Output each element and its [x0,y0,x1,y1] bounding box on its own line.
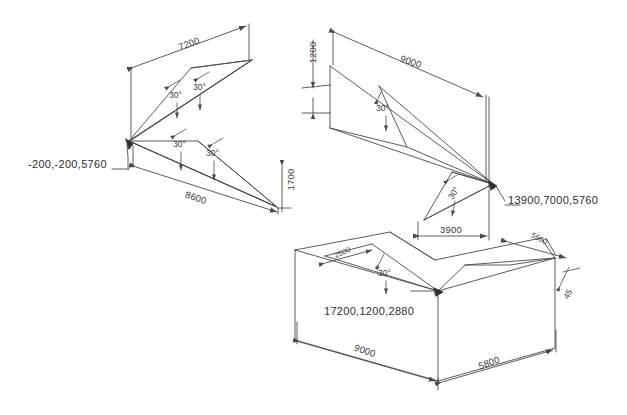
right-upper-roof-plane [330,66,493,184]
angle-label-1: 30° [169,90,182,100]
dimension-label-1700: 1700 [285,169,296,191]
leader-left-apex [112,145,129,169]
bottom-apex-marker [434,288,443,296]
coordinate-label-bottom-apex: 17200,1200,2880 [324,305,414,317]
coordinate-label-right-apex: 13900,7000,5760 [508,194,598,206]
angle-label-4: 30° [206,148,219,158]
dimension-label-3900: 3900 [440,224,462,235]
dim-line-5800 [442,330,556,382]
dimension-label-1200: 1200 [307,42,318,64]
angle-label-3: 30° [173,139,186,149]
angle-label-7: 30° [378,268,391,278]
angle-label-5: 30° [376,103,389,113]
drawing-canvas: -200,-200,5760 13900,7000,5760 17200,120… [0,0,627,415]
angle-label-2: 30° [193,82,206,92]
right-apex-marker [489,181,497,190]
angle-leader-45 [560,267,580,286]
coordinate-label-left-apex: -200,-200,5760 [28,158,107,170]
dim-line-9000-top [333,31,486,182]
